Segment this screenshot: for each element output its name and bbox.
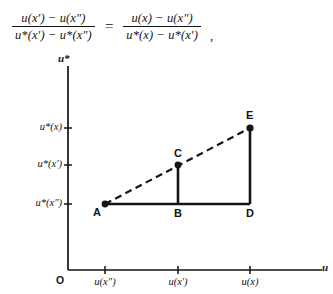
x-tick-label-u-x-dprime: u(x″) [94,276,115,287]
equals-sign: = [104,18,114,35]
point-label-c: C [174,147,182,159]
origin-label: O [56,274,64,286]
point-label-a: A [93,206,101,218]
diagram-plot: u* u O u*(x) u*(x′) u*(x″) u(x″) u(x′) u… [0,48,333,294]
right-fraction-numerator: u(x) − u(x″) [128,11,195,26]
x-axis-label: u [322,261,328,273]
right-fraction-denominator: u*(x) − u*(x′) [123,26,201,42]
equation-block: u(x′) − u(x″) u*(x′) − u*(x″) = u(x) − u… [12,4,322,48]
x-tick-label-u-x-prime: u(x′) [168,276,187,287]
point-label-d: D [246,207,254,219]
point-label-b: B [174,207,182,219]
left-fraction-denominator: u*(x′) − u*(x″) [12,26,95,42]
y-tick-label-u-star-x-prime: u*(x′) [38,158,62,169]
diagram-canvas [0,48,333,294]
y-tick-label-u-star-x-dprime: u*(x″) [35,197,62,208]
y-tick-label-u-star-x: u*(x) [40,121,62,132]
equation-trailing-punctuation: , [210,28,213,48]
right-fraction: u(x) − u(x″) u*(x) − u*(x′) [123,11,201,42]
figure-page: u(x′) − u(x″) u*(x′) − u*(x″) = u(x) − u… [0,0,333,294]
x-tick-label-u-x: u(x) [242,276,259,287]
point-a-dot [102,201,109,208]
point-e-dot [246,124,253,131]
left-fraction: u(x′) − u(x″) u*(x′) − u*(x″) [12,11,95,42]
point-c-dot [175,162,182,169]
y-axis-label: u* [58,52,70,64]
left-fraction-numerator: u(x′) − u(x″) [18,11,88,26]
point-label-e: E [246,109,253,121]
